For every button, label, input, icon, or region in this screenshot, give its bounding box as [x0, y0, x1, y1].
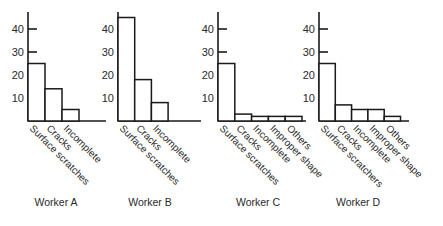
chart-title: Worker B	[128, 196, 172, 208]
bar	[335, 105, 351, 121]
bar	[45, 89, 62, 121]
bar	[235, 114, 252, 121]
y-tick-label: 40	[12, 23, 24, 35]
panel-worker-c: Worker C 10203040Surface scratchesCracks…	[202, 12, 326, 208]
bar	[28, 64, 45, 122]
y-tick-label: 30	[303, 46, 315, 58]
y-tick-label: 20	[303, 69, 315, 81]
y-tick-label: 20	[102, 69, 114, 81]
panel-worker-d: Worker D 10203040Surface scratchersCrack…	[303, 12, 425, 208]
panel-worker-a: Worker A 10203040Surface scratchesCracks…	[12, 12, 106, 208]
y-tick-label: 10	[303, 92, 315, 104]
panel-worker-b: Worker B 10203040Surface scratchesCracks…	[102, 12, 201, 208]
bar	[352, 110, 368, 122]
y-tick-label: 10	[202, 92, 214, 104]
y-tick-label: 30	[202, 46, 214, 58]
bar	[135, 80, 152, 121]
bar	[118, 18, 135, 122]
y-tick-label: 20	[12, 69, 24, 81]
bar	[384, 116, 400, 121]
chart-title: Worker C	[236, 196, 281, 208]
bar	[319, 64, 335, 122]
bar	[368, 110, 384, 122]
chart-title: Worker A	[35, 196, 78, 208]
y-tick-label: 20	[202, 69, 214, 81]
bar	[252, 116, 269, 121]
bar	[62, 110, 79, 122]
y-tick-label: 10	[12, 92, 24, 104]
y-tick-label: 10	[102, 92, 114, 104]
y-tick-label: 40	[303, 23, 315, 35]
chart-title: Worker D	[336, 196, 381, 208]
y-tick-label: 30	[102, 46, 114, 58]
y-tick-label: 40	[102, 23, 114, 35]
bar	[218, 64, 235, 122]
bar	[268, 116, 285, 121]
y-tick-label: 40	[202, 23, 214, 35]
bar	[151, 103, 168, 121]
bar	[285, 116, 302, 121]
y-tick-label: 30	[12, 46, 24, 58]
pareto-charts-figure: Worker A 10203040Surface scratchesCracks…	[0, 0, 443, 226]
